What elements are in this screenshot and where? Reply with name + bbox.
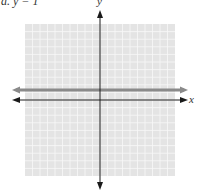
x-axis-arrow-left-icon [12,97,20,103]
line-arrow-left-icon [12,87,20,94]
y-axis-arrow-up-icon [97,10,103,18]
x-axis-arrow-right-icon [180,97,188,103]
line-arrow-right-icon [180,87,188,94]
y-axis-arrow-down-icon [97,182,103,190]
coordinate-plane [0,0,198,192]
